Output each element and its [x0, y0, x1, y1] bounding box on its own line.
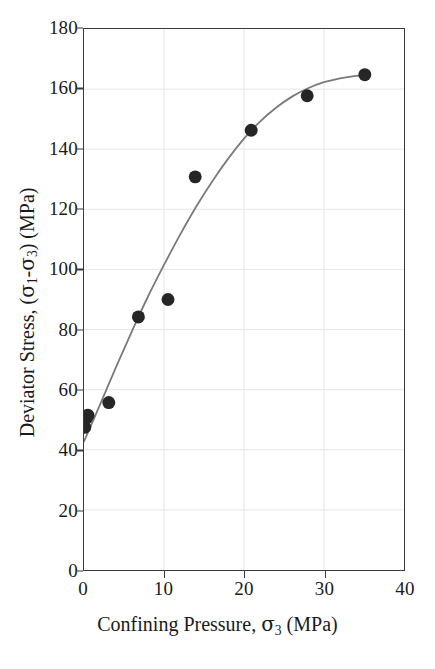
y-tick-mark	[76, 571, 83, 572]
x-axis-tick-labels: 010203040	[0, 578, 435, 608]
y-tick-mark	[76, 148, 83, 149]
data-layer	[84, 29, 404, 570]
y-tick-label: 180	[4, 18, 78, 37]
y-tick-mark	[76, 88, 83, 89]
data-point-marker	[102, 396, 115, 409]
figure-container: 020406080100120140160180 010203040 Devia…	[0, 0, 435, 669]
y-tick-mark	[76, 329, 83, 330]
x-tick-label: 30	[295, 578, 355, 600]
x-tick-label: 20	[214, 578, 274, 600]
data-point-marker	[189, 170, 202, 183]
y-tick-mark	[76, 510, 83, 511]
y-tick-mark	[76, 28, 83, 29]
y-tick-mark	[76, 450, 83, 451]
x-tick-label: 10	[134, 578, 194, 600]
data-point-marker	[301, 89, 314, 102]
data-point-marker	[162, 293, 175, 306]
y-axis-title: Deviator Stress, (σ1-σ3) (MPa)	[15, 52, 42, 572]
y-tick-mark	[76, 209, 83, 210]
x-tick-label: 0	[53, 578, 113, 600]
y-tick-mark	[76, 269, 83, 270]
x-tick-mark	[244, 571, 245, 578]
y-tick-mark	[76, 390, 83, 391]
data-point-marker	[132, 310, 145, 323]
x-tick-label: 40	[375, 578, 435, 600]
x-tick-mark	[325, 571, 326, 578]
x-axis-title: Confining Pressure, σ3 (MPa)	[0, 612, 435, 639]
data-point-marker	[358, 68, 371, 81]
fitted-curve	[84, 75, 366, 441]
data-point-marker	[245, 124, 258, 137]
plot-area	[83, 28, 405, 571]
x-tick-mark	[164, 571, 165, 578]
